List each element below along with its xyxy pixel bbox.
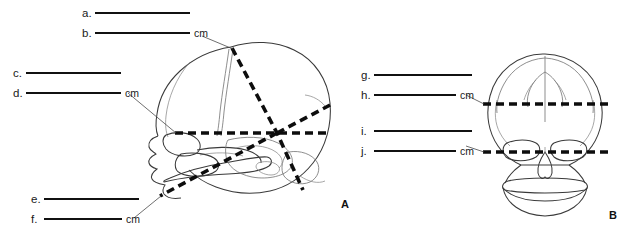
figure-b-frontal-skull — [466, 54, 612, 216]
blank-rule-e[interactable] — [44, 198, 139, 200]
blank-letter-a: a. — [82, 6, 95, 20]
figure-a-lateral-skull — [128, 36, 332, 218]
blank-unit-b: cm — [194, 26, 208, 40]
blank-rule-g[interactable] — [374, 74, 472, 76]
blank-letter-i: i. — [361, 124, 374, 138]
figure-label-a: A — [341, 198, 349, 210]
blank-letter-f: f. — [31, 212, 44, 226]
blank-rule-f[interactable] — [44, 218, 122, 220]
skull-b-maxilla — [503, 178, 588, 193]
blank-letter-j: j. — [361, 144, 374, 158]
skull-a-lambdoid-suture — [305, 95, 325, 106]
blank-row-a[interactable]: a. — [82, 6, 194, 20]
skull-a-facial-profile — [149, 136, 181, 198]
blank-rule-h[interactable] — [374, 94, 456, 96]
skull-a-occipital-line — [300, 176, 325, 182]
blank-letter-c: c. — [13, 66, 26, 80]
measure-line-a — [277, 104, 332, 133]
blank-letter-b: b. — [82, 26, 95, 40]
worksheet-page: .otl{fill:none;stroke:#3a3a3a;stroke-wid… — [0, 0, 631, 232]
measure-line-f — [160, 133, 277, 196]
blank-rule-c[interactable] — [26, 72, 121, 74]
blank-unit-d: cm — [125, 86, 139, 100]
blank-row-j[interactable]: j. cm — [361, 144, 474, 158]
blank-rule-b[interactable] — [95, 32, 190, 34]
skull-b-anterior-fontanelle-left — [527, 72, 545, 107]
skull-b-temporal-ridge-right — [580, 100, 595, 146]
blank-unit-h: cm — [460, 88, 474, 102]
measure-line-b — [232, 48, 303, 190]
blank-row-d[interactable]: d. cm — [13, 86, 139, 100]
blank-unit-f: cm — [126, 212, 140, 226]
blank-letter-h: h. — [361, 88, 374, 102]
blank-letter-e: e. — [31, 192, 44, 206]
skull-a-frontal-outline — [156, 47, 231, 136]
skull-b-mandible — [503, 188, 587, 216]
figure-label-b: B — [609, 209, 617, 221]
skull-a-ear-canal — [256, 162, 280, 175]
blank-row-e[interactable]: e. — [31, 192, 143, 206]
blank-row-h[interactable]: h. cm — [361, 88, 474, 102]
blank-row-b[interactable]: b. cm — [82, 26, 208, 40]
skull-b-temporal-ridge-left — [495, 100, 510, 146]
blank-rule-i[interactable] — [374, 130, 472, 132]
blank-rule-j[interactable] — [374, 150, 456, 152]
blank-rule-d[interactable] — [26, 92, 121, 94]
skull-a-orbit — [163, 133, 200, 156]
blank-row-c[interactable]: c. — [13, 66, 125, 80]
blank-row-g[interactable]: g. — [361, 68, 476, 82]
skull-b-anterior-fontanelle-right — [545, 72, 563, 107]
blank-row-i[interactable]: i. — [361, 124, 476, 138]
blank-letter-d: d. — [13, 86, 26, 100]
blank-letter-g: g. — [361, 68, 374, 82]
blank-rule-a[interactable] — [95, 12, 190, 14]
blank-row-f[interactable]: f. cm — [31, 212, 140, 226]
skull-a-maxilla — [175, 153, 218, 176]
blank-unit-j: cm — [460, 144, 474, 158]
